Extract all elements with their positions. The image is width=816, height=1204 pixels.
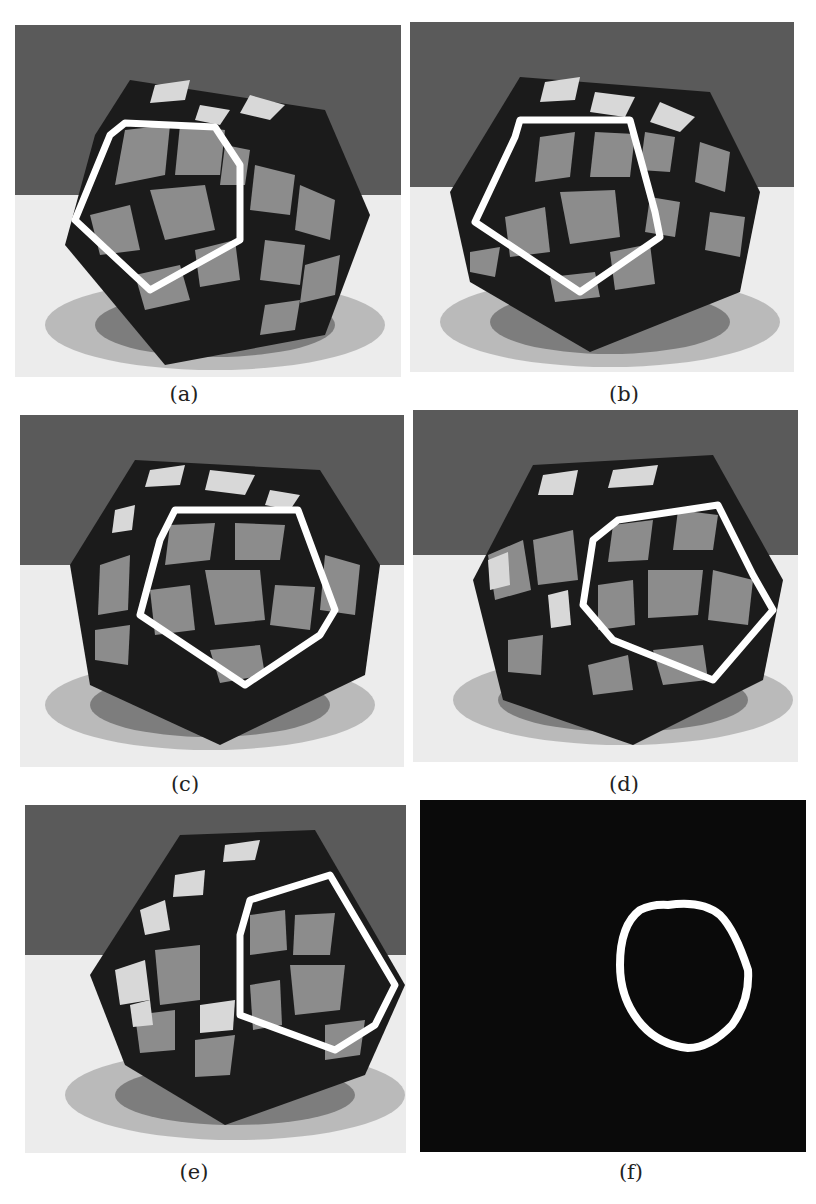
megaminx-photo-d — [413, 410, 798, 762]
caption-b: (b) — [594, 382, 654, 406]
megaminx-photo-e — [25, 805, 406, 1153]
megaminx-photo-c — [20, 415, 404, 767]
panel-e — [25, 805, 406, 1153]
megaminx-photo-b — [410, 22, 794, 372]
caption-f: (f) — [601, 1160, 661, 1184]
panel-a — [15, 25, 401, 377]
caption-e: (e) — [164, 1160, 224, 1184]
caption-d: (d) — [594, 772, 654, 796]
panel-c — [20, 415, 404, 767]
caption-a: (a) — [154, 382, 214, 406]
panel-d — [413, 410, 798, 762]
caption-c: (c) — [155, 772, 215, 796]
panel-f — [420, 800, 806, 1152]
panel-b — [410, 22, 794, 372]
megaminx-photo-a — [15, 25, 401, 377]
contour-mask-f — [420, 800, 806, 1152]
